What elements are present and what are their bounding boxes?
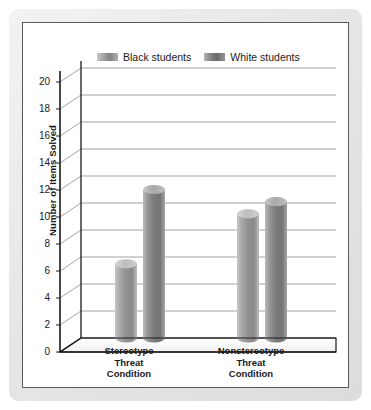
gridline-16 (60, 122, 336, 136)
chart-legend: Black students White students (97, 51, 300, 63)
x-category-label-stereotype: Stereotype Threat Condition (69, 345, 189, 380)
y-tick-label-6: 6 (28, 265, 50, 276)
gridline-6 (60, 257, 336, 271)
bar-stereotype-black-students (115, 259, 137, 342)
gridline-12 (60, 176, 336, 190)
x-category-label-stereotype-line2: Threat (69, 357, 189, 369)
y-axis-title: Number of Items Solved (47, 106, 58, 256)
legend-entry-white-students[interactable]: White students (204, 51, 299, 63)
figure-outer-frame: 0 2 4 6 8 10 12 14 16 18 20 Number of It… (9, 9, 362, 401)
legend-label-white-students: White students (230, 51, 299, 63)
bar-stereotype-white-students (143, 185, 165, 343)
legend-label-black-students: Black students (123, 51, 191, 63)
gridline-18 (60, 95, 336, 109)
gridline-4 (60, 284, 336, 298)
gridlines (60, 68, 336, 325)
gridline-2 (60, 311, 336, 325)
gridline-10 (60, 203, 336, 217)
gridline-8 (60, 230, 336, 244)
bar-nonstereotype-white-students (265, 197, 287, 343)
chart-plot-card: 0 2 4 6 8 10 12 14 16 18 20 Number of It… (22, 22, 349, 388)
y-tick-label-2: 2 (28, 319, 50, 330)
x-category-label-nonstereotype: Nonstereotype Threat Condition (191, 345, 311, 380)
y-tick-label-4: 4 (28, 292, 50, 303)
legend-swatch-white-students (204, 53, 225, 61)
x-category-label-nonstereotype-line2: Threat (191, 357, 311, 369)
x-category-label-nonstereotype-line1: Nonstereotype (191, 345, 311, 357)
y-tick-label-0: 0 (28, 346, 50, 357)
x-category-label-stereotype-line3: Condition (69, 368, 189, 380)
bar-nonstereotype-black-students (237, 209, 259, 342)
bar-chart-svg (23, 23, 350, 389)
y-tick-label-20: 20 (28, 76, 50, 87)
chart-canvas: 0 2 4 6 8 10 12 14 16 18 20 Number of It… (23, 23, 350, 389)
legend-swatch-black-students (97, 53, 118, 61)
legend-entry-black-students[interactable]: Black students (97, 51, 191, 63)
x-category-label-stereotype-line1: Stereotype (69, 345, 189, 357)
gridline-20 (60, 68, 336, 82)
gridline-14 (60, 149, 336, 163)
x-category-label-nonstereotype-line3: Condition (191, 368, 311, 380)
